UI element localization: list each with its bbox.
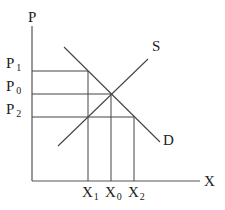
supply-label: S xyxy=(152,38,160,54)
x1-label: X1 xyxy=(82,184,99,202)
p0-label: P0 xyxy=(6,78,21,96)
p1-label: P1 xyxy=(6,55,21,73)
x0-label: X0 xyxy=(105,184,122,202)
y-axis-label: P xyxy=(28,9,36,25)
x2-label: X2 xyxy=(128,184,145,202)
x-axis-label: X xyxy=(204,173,215,189)
demand-label: D xyxy=(163,132,174,148)
supply-demand-diagram: P X S D P1 P0 P2 X1 X0 X2 xyxy=(0,0,225,210)
p2-label: P2 xyxy=(6,101,21,119)
